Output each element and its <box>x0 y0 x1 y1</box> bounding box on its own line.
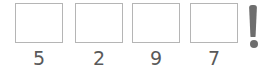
answer-slot-label-1: 5 <box>15 47 63 69</box>
answer-slot-2[interactable]: 2 <box>75 3 123 43</box>
answer-slot-3[interactable]: 9 <box>132 3 180 43</box>
answer-slot-row: 5 2 9 7 <box>0 0 271 74</box>
exclamation-mark-icon <box>247 3 261 51</box>
exclamation-dot <box>250 40 258 48</box>
answer-box-1[interactable] <box>15 3 63 43</box>
answer-slot-label-3: 9 <box>132 47 180 69</box>
answer-slot-label-2: 2 <box>75 47 123 69</box>
answer-slot-4[interactable]: 7 <box>190 3 238 43</box>
exclamation-stem <box>249 5 257 37</box>
answer-box-2[interactable] <box>75 3 123 43</box>
answer-slot-1[interactable]: 5 <box>15 3 63 43</box>
answer-box-3[interactable] <box>132 3 180 43</box>
answer-slots-widget: 5 2 9 7 <box>0 0 271 74</box>
answer-slot-label-4: 7 <box>190 47 238 69</box>
answer-box-4[interactable] <box>190 3 238 43</box>
